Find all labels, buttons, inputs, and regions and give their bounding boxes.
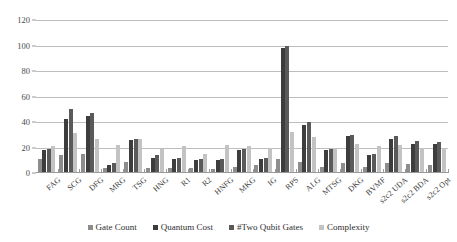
bar <box>247 146 251 173</box>
bar <box>312 137 316 173</box>
bar <box>86 116 90 173</box>
bar <box>134 139 138 173</box>
bar <box>329 149 333 173</box>
bar <box>64 119 68 173</box>
x-axis-tick-label: MKG <box>238 176 257 195</box>
bar <box>42 150 46 173</box>
bar <box>281 48 285 173</box>
plot-area <box>36 20 448 173</box>
x-axis-tick-mark <box>448 169 449 173</box>
bars-layer <box>36 20 448 173</box>
bar <box>415 141 419 173</box>
y-axis-tick-label: 80 <box>22 67 31 76</box>
bar <box>307 122 311 173</box>
legend-swatch-icon <box>319 225 324 230</box>
bar-group <box>231 20 253 173</box>
bar <box>285 46 289 174</box>
bar <box>151 158 155 173</box>
bar <box>116 145 120 173</box>
bar-chart: 020406080100120 FAGSCGDFGMRGTSGHNGR1R2HN… <box>0 0 457 242</box>
x-axis-tick-label: MTSG <box>322 176 344 197</box>
bar-group <box>296 20 318 173</box>
bar-group <box>405 20 427 173</box>
bar <box>177 158 181 173</box>
bar <box>59 155 63 173</box>
bar-group <box>188 20 210 173</box>
legend-item[interactable]: #Two Qubit Gates <box>229 223 303 232</box>
bar <box>225 145 229 173</box>
bar <box>220 159 224 173</box>
bar <box>367 155 371 173</box>
x-axis-tick-label: DKG <box>347 176 365 194</box>
x-axis-tick-label: TSG <box>132 176 149 192</box>
bar <box>350 135 354 173</box>
bar <box>442 148 446 174</box>
legend-swatch-icon <box>153 225 158 230</box>
bar <box>90 113 94 173</box>
bar <box>38 159 42 173</box>
bar <box>199 159 203 173</box>
bar <box>355 144 359 173</box>
legend-label: Gate Count <box>96 223 137 232</box>
bar-group <box>36 20 58 173</box>
bar <box>138 139 142 173</box>
y-axis-tick-label: 40 <box>22 118 31 127</box>
legend-swatch-icon <box>88 225 93 230</box>
y-axis-tick-label: 0 <box>26 169 30 178</box>
bar <box>182 146 186 173</box>
bar <box>129 140 133 173</box>
x-axis-tick-label: R2 <box>201 176 213 188</box>
y-axis-tick-label: 100 <box>17 41 30 50</box>
bar-group <box>361 20 383 173</box>
bar-group <box>383 20 405 173</box>
bar-group <box>123 20 145 173</box>
bar-group <box>253 20 275 173</box>
bar-group <box>275 20 297 173</box>
bar <box>346 136 350 173</box>
bar <box>73 133 77 173</box>
legend-label: Quantum Cost <box>161 223 213 232</box>
bar-group <box>58 20 80 173</box>
bar <box>242 149 246 173</box>
bar <box>302 125 306 173</box>
y-axis: 020406080100120 <box>0 20 36 173</box>
bar-group <box>318 20 340 173</box>
bar <box>324 150 328 173</box>
bar-group <box>144 20 166 173</box>
bar <box>160 149 164 173</box>
x-axis-tick-label: SCG <box>66 176 83 193</box>
bar <box>69 109 73 173</box>
bar <box>155 155 159 173</box>
bar <box>51 146 55 173</box>
bar <box>237 150 241 173</box>
x-axis-tick-label: IG <box>267 176 279 188</box>
bar <box>290 132 294 173</box>
bar <box>411 144 415 173</box>
bar-group <box>426 20 448 173</box>
bar <box>172 159 176 173</box>
bar <box>398 145 402 173</box>
x-axis-tick-label: R1 <box>180 176 192 188</box>
legend-item[interactable]: Gate Count <box>88 223 137 232</box>
bar <box>47 149 51 173</box>
bar <box>372 154 376 173</box>
bar <box>433 144 437 173</box>
y-axis-tick-label: 20 <box>22 143 31 152</box>
legend-swatch-icon <box>229 225 234 230</box>
bar <box>95 139 99 173</box>
bar <box>377 146 381 173</box>
bar-group <box>79 20 101 173</box>
bar <box>203 154 207 173</box>
bar-group <box>166 20 188 173</box>
legend-label: #Two Qubit Gates <box>237 223 303 232</box>
x-axis-tick-label: HNFG <box>214 176 236 197</box>
bar-group <box>340 20 362 173</box>
x-axis-tick-label: DFG <box>88 176 105 193</box>
legend-item[interactable]: Complexity <box>319 223 370 232</box>
bar <box>264 158 268 173</box>
bar <box>389 139 393 173</box>
bar <box>268 148 272 174</box>
y-axis-tick-label: 120 <box>17 16 30 25</box>
bar <box>420 148 424 174</box>
legend-item[interactable]: Quantum Cost <box>153 223 213 232</box>
